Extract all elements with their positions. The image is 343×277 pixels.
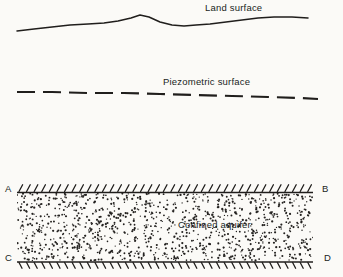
piezometric-surface-label: Piezometric surface [163,76,250,87]
land-surface-label: Land surface [205,2,262,13]
top-confining-bed-hatching [19,185,311,192]
corner-label-d: D [324,252,331,263]
corner-label-c: C [5,252,12,263]
aquifer-stipple-fill [16,193,313,262]
bottom-confining-bed-hatching [19,263,311,269]
land-surface-line [17,15,308,31]
corner-label-a: A [5,183,12,194]
aquifer-cross-section-figure [0,0,343,277]
piezometric-surface-line [17,92,318,99]
confined-aquifer-label: Confined aquifer [178,219,251,230]
corner-label-b: B [322,183,329,194]
